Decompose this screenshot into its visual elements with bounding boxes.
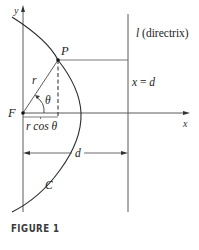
directrix-suffix: (directrix) (139, 27, 189, 40)
curve-label: C (45, 179, 53, 191)
point-p (56, 58, 60, 62)
focus-label: F (7, 106, 16, 120)
point-p-label: P (60, 44, 69, 58)
directrix-equation: x = d (131, 76, 155, 88)
directrix-eq-op: = (137, 76, 149, 88)
figure-caption: FIGURE 1 (11, 222, 60, 234)
focus-point (21, 111, 25, 115)
distance-arrow-right-icon (121, 151, 128, 155)
y-axis-label: y (13, 5, 19, 16)
x-axis-label: x (182, 118, 188, 129)
angle-label: θ (45, 94, 51, 106)
angle-arc (36, 97, 44, 113)
radius-label: r (32, 74, 37, 86)
radius-line (23, 60, 58, 113)
x-axis-arrow-icon (183, 111, 190, 115)
distance-label: d (75, 147, 81, 159)
directrix-eq-rhs: d (149, 76, 155, 88)
directrix-label: l (directrix) (136, 27, 189, 40)
distance-arrow-left-icon (23, 151, 30, 155)
angle-arrow-icon (35, 95, 40, 99)
y-axis-arrow-icon (21, 5, 25, 12)
projection-text: r cos θ (26, 120, 58, 132)
projection-label: r cos θ (26, 120, 58, 132)
polar-conic-diagram: y x l (directrix) x = d C r θ P F r cos … (0, 0, 199, 250)
